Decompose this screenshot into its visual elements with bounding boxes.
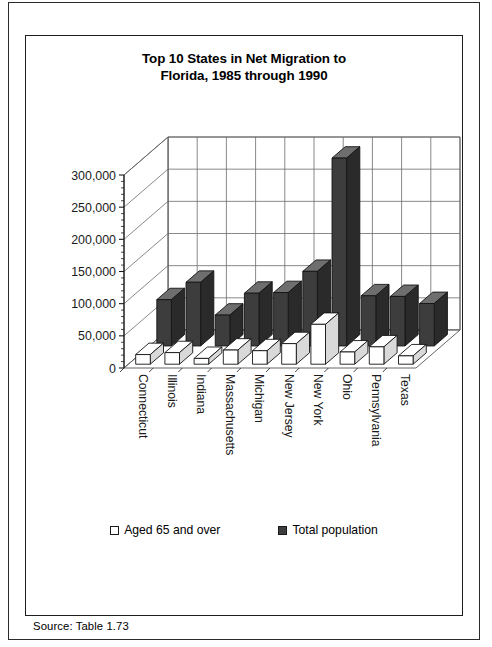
legend-swatch-icon-total	[278, 526, 287, 535]
chart-plot-area: 050,000100,000150,000200,000250,000300,0…	[26, 96, 464, 526]
svg-text:New Jersey: New Jersey	[282, 374, 296, 439]
svg-text:Texas: Texas	[398, 374, 412, 406]
svg-text:150,000: 150,000	[71, 265, 116, 279]
svg-text:200,000: 200,000	[71, 233, 116, 247]
legend-item-aged-65-and-over: Aged 65 and over	[110, 523, 220, 537]
svg-text:Massachusetts: Massachusetts	[223, 374, 237, 455]
legend-label-aged: Aged 65 and over	[124, 523, 220, 537]
svg-text:Illinois: Illinois	[165, 374, 179, 408]
svg-text:Ohio: Ohio	[340, 374, 354, 400]
source-note: Source: Table 1.73	[33, 620, 129, 632]
svg-text:100,000: 100,000	[71, 297, 116, 311]
legend-swatch-icon-aged	[110, 526, 119, 535]
chart-title: Top 10 States in Net Migration to Florid…	[26, 50, 462, 84]
chart-title-line-2: Florida, 1985 through 1990	[26, 67, 462, 84]
bar-chart-3d: 050,000100,000150,000200,000250,000300,0…	[26, 96, 464, 526]
svg-text:Connecticut: Connecticut	[136, 374, 150, 439]
chart-legend: Aged 65 and over Total population	[26, 523, 462, 537]
svg-text:Indiana: Indiana	[194, 374, 208, 414]
chart-card: Top 10 States in Net Migration to Florid…	[25, 35, 463, 616]
svg-text:Pennsylvania: Pennsylvania	[369, 374, 383, 447]
chart-title-line-1: Top 10 States in Net Migration to	[26, 50, 462, 67]
svg-text:50,000: 50,000	[78, 329, 116, 343]
page-root: Top 10 States in Net Migration to Florid…	[0, 0, 492, 647]
svg-text:300,000: 300,000	[71, 169, 116, 183]
svg-text:New York: New York	[311, 374, 325, 426]
legend-item-total-population: Total population	[278, 523, 377, 537]
svg-text:250,000: 250,000	[71, 201, 116, 215]
legend-label-total: Total population	[292, 523, 377, 537]
svg-text:0: 0	[109, 362, 116, 376]
svg-text:Michigan: Michigan	[252, 374, 266, 423]
